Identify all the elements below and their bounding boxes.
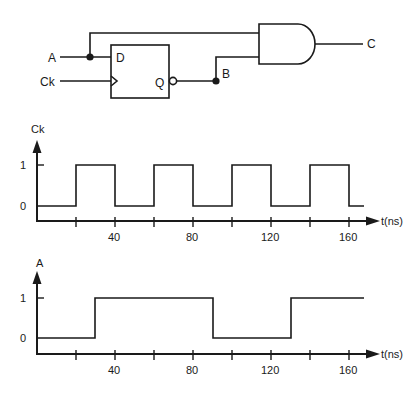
ck-tick-label-120: 120 [261, 231, 279, 243]
junction-dot-b [212, 77, 219, 84]
ck-y-axis-arrow-icon [33, 140, 42, 153]
clock-edge-icon [111, 76, 117, 86]
a-waveform-chart: A t(ns) 1 0 40 80 120 160 [20, 257, 403, 376]
ck-time-label: t(ns) [381, 215, 403, 227]
a-time-label: t(ns) [381, 348, 403, 360]
label-q: Q [155, 76, 164, 90]
a-tick-label-80: 80 [186, 364, 198, 376]
ck-x-axis-arrow-icon [366, 217, 380, 226]
ck-tick-label-80: 80 [186, 231, 198, 243]
a-x-axis-arrow-icon [366, 350, 380, 359]
ck-axis-label: Ck [31, 123, 45, 135]
label-d: D [116, 51, 125, 65]
ck-tick-label-160: 160 [339, 231, 357, 243]
label-b: B [222, 67, 230, 81]
label-a: A [48, 51, 56, 65]
logic-circuit [60, 24, 363, 98]
ck-waveform-chart: Ck t(ns) 1 0 40 80 120 160 [20, 123, 403, 243]
ck-signal-trace [37, 165, 364, 206]
a-tick-label-120: 120 [261, 364, 279, 376]
a-y-axis-arrow-icon [33, 271, 42, 284]
a-tick-label-160: 160 [339, 364, 357, 376]
label-ck: Ck [40, 75, 56, 89]
a-axis-label: A [36, 257, 44, 269]
timing-diagram-figure: A Ck D Q B C Ck t(ns) 1 0 40 80 120 160 [0, 0, 418, 399]
inversion-bubble-icon [169, 77, 176, 84]
ck-tick-label-40: 40 [108, 231, 120, 243]
ck-label-1: 1 [20, 159, 26, 171]
a-label-1: 1 [20, 292, 26, 304]
label-c: C [367, 37, 376, 51]
a-tick-label-40: 40 [108, 364, 120, 376]
ck-label-0: 0 [20, 200, 26, 212]
a-signal-trace [37, 298, 364, 338]
a-label-0: 0 [20, 332, 26, 344]
junction-dot-a [86, 53, 93, 60]
and-gate-icon [259, 24, 315, 64]
